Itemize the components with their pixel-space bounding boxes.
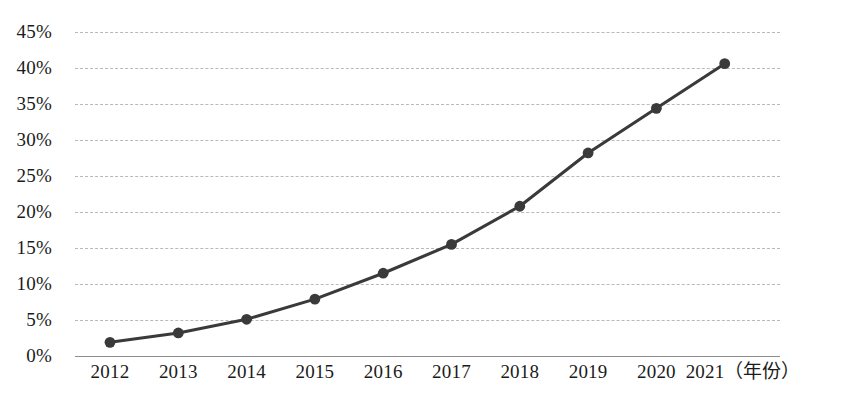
line-chart: 0%5%10%15%20%25%30%35%40%45% 2012: 1.9%2… [0,0,846,406]
data-point-marker: 2017: 15.5% [446,239,457,250]
data-point-marker: 2021: 40.6% [719,58,730,69]
x-axis-tick-label: 2020 [637,362,676,381]
x-axis-unit-label: （年份） [724,361,800,382]
data-point-marker: 2012: 1.9% [105,337,116,348]
series-line [110,64,725,343]
x-axis-tick-label: 2013 [159,362,198,381]
x-axis-tick-label: 2016 [364,362,403,381]
data-point-marker: 2018: 20.8% [514,201,525,212]
data-point-marker: 2015: 7.9% [310,294,321,305]
x-axis-tick-label: 2012 [91,362,130,381]
data-point-marker: 2013: 3.2% [173,328,184,339]
data-point-marker: 2020: 34.4% [651,103,662,114]
x-axis-tick-label: 2017 [432,362,471,381]
data-point-marker: 2019: 28.2% [583,148,594,159]
data-series-layer: 2012: 1.9%2013: 3.2%2014: 5.1%2015: 7.9%… [0,0,846,406]
x-axis-tick-labels: 2012201320142015201620172018201920202021… [0,362,846,402]
x-axis-tick-label: 2021（年份） [686,362,801,381]
data-point-marker: 2016: 11.5% [378,268,389,279]
x-axis-tick-label: 2014 [227,362,266,381]
data-point-marker: 2014: 5.1% [241,314,252,325]
x-axis-tick-label: 2019 [569,362,608,381]
x-axis-tick-label: 2018 [500,362,539,381]
x-axis-tick-label: 2015 [295,362,334,381]
